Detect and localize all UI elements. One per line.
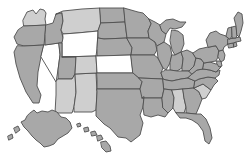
state-WY[interactable] (62, 31, 98, 57)
us-map-container (0, 0, 244, 161)
state-WA[interactable] (23, 9, 46, 26)
state-FL[interactable] (176, 113, 212, 144)
state-ID[interactable] (45, 13, 63, 45)
state-AK[interactable] (8, 110, 72, 147)
state-IN[interactable] (170, 52, 183, 71)
state-KS[interactable] (96, 55, 133, 73)
state-MT[interactable] (56, 8, 101, 34)
state-NE[interactable] (97, 38, 132, 56)
state-AZ[interactable] (55, 74, 76, 113)
state-MN[interactable] (124, 8, 151, 38)
state-NM[interactable] (74, 73, 97, 112)
state-SD[interactable] (98, 22, 127, 39)
state-OR[interactable] (14, 25, 46, 46)
state-NJ[interactable] (218, 50, 225, 62)
state-CA[interactable] (14, 45, 44, 103)
state-NV[interactable] (41, 43, 60, 82)
state-AR[interactable] (139, 78, 164, 98)
us-choropleth-map (0, 0, 244, 161)
state-TX[interactable] (96, 89, 144, 142)
state-VT[interactable] (226, 27, 232, 39)
state-HI[interactable] (77, 123, 111, 152)
state-ND[interactable] (100, 8, 125, 23)
